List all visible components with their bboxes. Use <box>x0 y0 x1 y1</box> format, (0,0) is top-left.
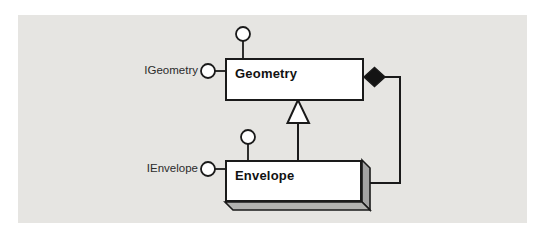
interface-label-ienvelope: IEnvelope <box>118 162 198 174</box>
igeometry-lollipop-icon <box>201 64 215 78</box>
uml-diagram-canvas <box>0 0 549 238</box>
envelope-class-label: Envelope <box>227 162 360 183</box>
geometry-class-label: Geometry <box>227 60 362 81</box>
envelope-top-lollipop-icon <box>241 130 255 144</box>
interface-label-igeometry: IGeometry <box>118 64 198 76</box>
ienvelope-lollipop-icon <box>201 162 215 176</box>
composition-connector-line <box>370 77 400 183</box>
diagram-page: Geometry Envelope IGeometry IEnvelope <box>0 0 549 238</box>
inheritance-triangle-icon <box>288 100 310 123</box>
class-box-envelope: Envelope <box>225 160 362 202</box>
composition-diamond-icon <box>364 68 385 87</box>
class-box-geometry: Geometry <box>225 58 364 101</box>
envelope-shadow-bottom-face <box>225 202 370 210</box>
geometry-top-lollipop-icon <box>236 27 250 41</box>
